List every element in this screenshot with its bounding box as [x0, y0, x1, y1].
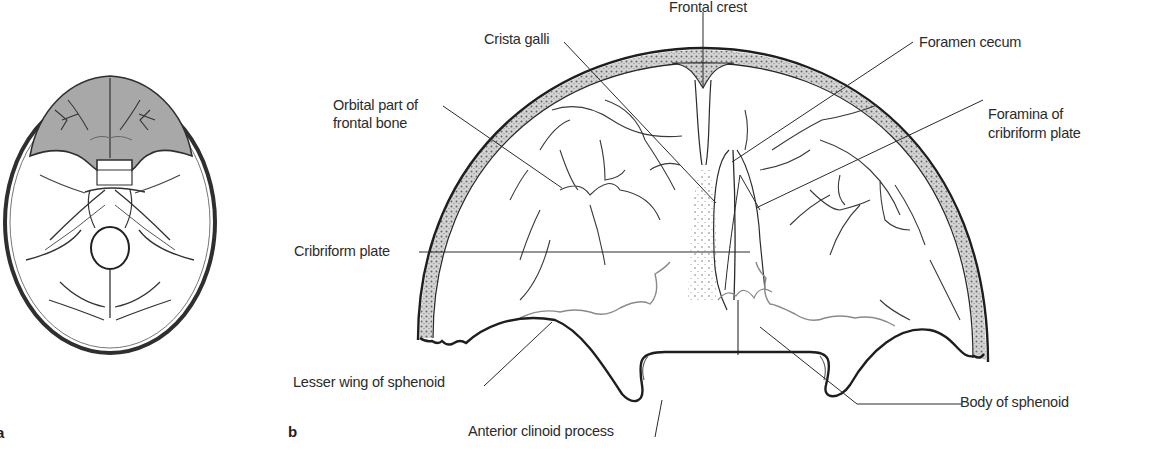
label-anterior-clinoid: Anterior clinoid process	[468, 423, 614, 440]
anatomy-illustration	[0, 0, 1159, 460]
label-lesser-wing: Lesser wing of sphenoid	[293, 374, 445, 391]
anterior-fossa-drawing	[418, 12, 988, 437]
label-foramina-line1: Foramina of	[988, 106, 1063, 123]
label-foramen-cecum: Foramen cecum	[919, 34, 1021, 51]
label-orbital-part-line2: frontal bone	[333, 115, 407, 132]
label-frontal-crest: Frontal crest	[669, 0, 747, 16]
label-foramina-line2: cribriform plate	[988, 125, 1081, 142]
label-crista-galli: Crista galli	[484, 31, 549, 48]
label-orbital-part-line1: Orbital part of	[333, 97, 418, 114]
skull-base-drawing	[5, 76, 215, 353]
label-cribriform-plate: Cribriform plate	[294, 243, 390, 260]
label-body-of-sphenoid: Body of sphenoid	[960, 394, 1069, 411]
panel-label-a: a	[0, 424, 4, 441]
panel-label-b: b	[288, 423, 297, 440]
